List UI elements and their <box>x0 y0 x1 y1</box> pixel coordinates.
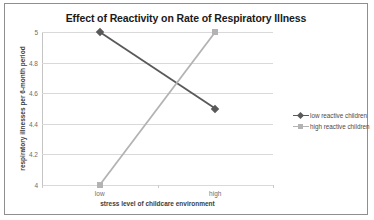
y-tick-label: 4.6 <box>29 90 38 97</box>
y-axis-title: respiratory illnesses per 6-month period <box>19 32 30 185</box>
y-tick-label: 4 <box>34 182 38 189</box>
x-tick-mark <box>158 185 159 188</box>
x-tick-mark <box>42 185 43 188</box>
legend-label: low reactive children <box>310 112 367 119</box>
legend-swatch-icon <box>293 111 309 120</box>
chart-legend: low reactive childrenhigh reactive child… <box>293 110 370 132</box>
legend-item[interactable]: low reactive children <box>293 110 370 121</box>
legend-swatch-icon <box>293 122 309 131</box>
x-axis-title: stress level of childcare environment <box>42 200 273 207</box>
legend-item[interactable]: high reactive children <box>293 121 370 132</box>
series-line <box>100 32 216 109</box>
y-tick-label: 4.8 <box>29 59 38 66</box>
plot-area: 44.24.44.64.85 lowhigh <box>42 32 273 185</box>
y-tick-label: 4.4 <box>29 120 38 127</box>
chart-figure-frame: Effect of Reactivity on Rate of Respirat… <box>4 3 368 215</box>
chart-title: Effect of Reactivity on Rate of Respirat… <box>5 12 367 24</box>
data-point-marker <box>212 29 218 35</box>
series-lines <box>42 32 273 185</box>
y-tick-label: 5 <box>34 29 38 36</box>
x-tick-label: low <box>95 190 105 197</box>
y-tick-label: 4.2 <box>29 151 38 158</box>
legend-label: high reactive children <box>310 123 370 130</box>
series-line <box>100 32 216 185</box>
data-point-marker <box>97 182 103 188</box>
x-tick-mark <box>273 185 274 188</box>
x-tick-label: high <box>209 190 221 197</box>
